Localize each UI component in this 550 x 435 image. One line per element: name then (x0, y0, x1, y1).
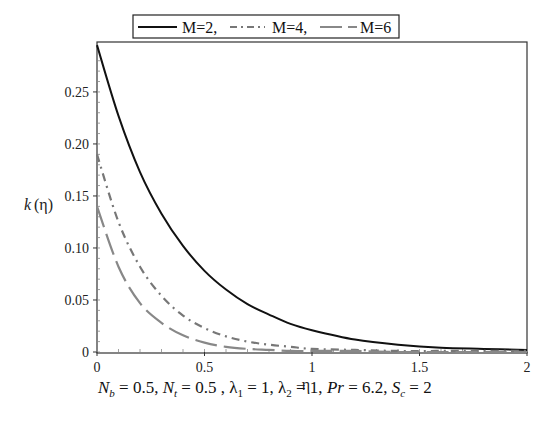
x-tick-label: 1.5 (411, 360, 429, 375)
svg-text:k: k (24, 196, 32, 213)
legend-label-m4: M=4, (272, 19, 307, 36)
chart: M=2, M=4, M=6 00.050.100.150.200.2500.51… (0, 0, 550, 435)
x-tick-label: 1 (309, 360, 316, 375)
legend: M=2, M=4, M=6 (133, 15, 399, 38)
legend-label-m2: M=2, (182, 19, 217, 36)
parameter-caption: Nb = 0.5, Nt = 0.5 , λ1 = 1, λ2 = 1, Pr … (98, 378, 432, 399)
x-tick-label: 0 (94, 360, 101, 375)
x-tick-label: 0.5 (196, 360, 214, 375)
svg-text:(η): (η) (34, 196, 53, 214)
legend-label-m6: M=6 (360, 19, 391, 36)
x-tick-label: 2 (524, 360, 531, 375)
axis-ticks: 00.050.100.150.200.2500.511.52 (65, 61, 531, 375)
y-tick-label: 0.25 (65, 85, 90, 100)
y-axis-label: k (η) (24, 196, 53, 214)
y-tick-label: 0.10 (65, 241, 90, 256)
curve-m2 (97, 45, 527, 350)
plot-frame (97, 42, 527, 353)
y-tick-label: 0.05 (65, 293, 90, 308)
y-tick-label: 0.15 (65, 189, 90, 204)
y-tick-label: 0 (82, 345, 89, 360)
curves (97, 45, 527, 352)
y-tick-label: 0.20 (65, 137, 90, 152)
